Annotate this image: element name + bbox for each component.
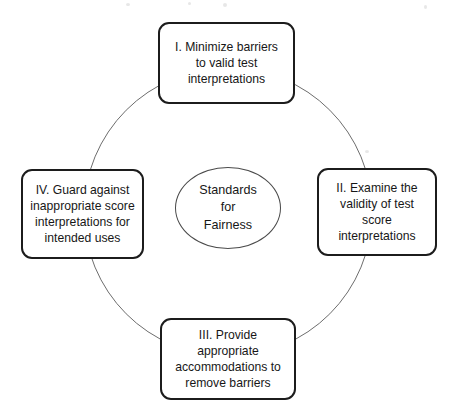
scan-artifact xyxy=(188,2,191,5)
scan-artifact xyxy=(365,150,369,153)
node-box-iii[interactable]: III. Provide appropriate accommodations … xyxy=(160,318,296,400)
node-label-ii: II. Examine the validity of test score i… xyxy=(325,180,429,244)
node-box-i[interactable]: I. Minimize barriers to valid test inter… xyxy=(158,22,295,104)
center-label: Standards for Fairness xyxy=(199,182,256,234)
node-label-iii: III. Provide appropriate accommodations … xyxy=(175,327,281,391)
scan-artifact xyxy=(223,3,227,7)
node-label-i: I. Minimize barriers to valid test inter… xyxy=(175,39,278,87)
scan-artifact xyxy=(126,3,130,6)
fairness-cycle-diagram: I. Minimize barriers to valid test inter… xyxy=(0,0,452,420)
caption-artifact xyxy=(86,408,336,420)
node-label-iv: IV. Guard against inappropriate score in… xyxy=(30,182,134,246)
node-box-ii[interactable]: II. Examine the validity of test score i… xyxy=(317,168,437,256)
center-ellipse[interactable]: Standards for Fairness xyxy=(175,167,281,249)
node-box-iv[interactable]: IV. Guard against inappropriate score in… xyxy=(21,169,144,259)
scan-artifact xyxy=(424,5,427,9)
